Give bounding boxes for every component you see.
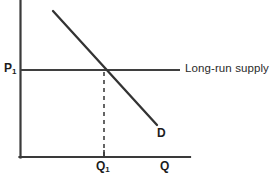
- long-run-supply-label: Long-run supply: [185, 63, 269, 75]
- quantity-equilibrium-label-subscript: 1: [105, 165, 109, 174]
- demand-curve: [53, 11, 157, 125]
- demand-curve-label: D: [157, 127, 166, 139]
- price-axis-label-subscript: 1: [12, 67, 16, 76]
- long-run-supply-diagram: P1 Long-run supply Q1 Q D: [0, 0, 270, 175]
- quantity-equilibrium-label: Q1: [96, 160, 110, 172]
- diagram-canvas: [0, 0, 270, 175]
- quantity-equilibrium-label-text: Q: [96, 159, 105, 173]
- price-axis-label-text: P: [4, 61, 12, 75]
- quantity-axis-label: Q: [160, 160, 169, 172]
- price-axis-label: P1: [4, 62, 16, 74]
